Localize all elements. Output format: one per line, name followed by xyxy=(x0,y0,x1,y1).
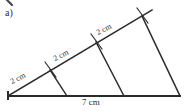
cropped-stroke-fragment xyxy=(7,0,12,5)
part-label: a) xyxy=(5,8,13,18)
triangle-diagram-svg xyxy=(0,0,189,112)
tick-mark-1-icon xyxy=(45,62,56,77)
transversal-line-1 xyxy=(50,70,67,96)
geometry-figure-screenshot: a) 2 cm 2 cm 2 cm 7 cm xyxy=(0,0,189,112)
triangle-slant-side xyxy=(8,10,152,96)
base-length-label: 7 cm xyxy=(82,98,100,107)
transversal-line-2 xyxy=(96,42,124,96)
tick-mark-3-icon xyxy=(137,8,148,23)
triangle-right-side xyxy=(142,16,180,96)
